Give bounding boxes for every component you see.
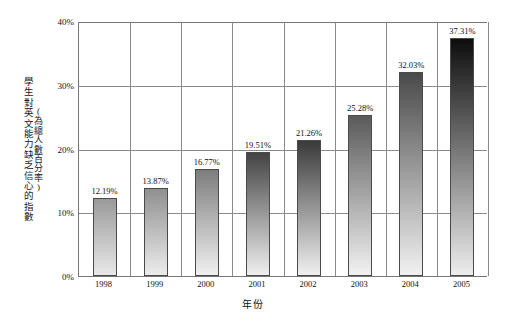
bar: 19.51% <box>246 152 270 276</box>
y-axis-tick-labels: 0%10%20%30%40% <box>40 0 74 326</box>
bar: 13.87% <box>144 188 168 276</box>
bar: 32.03% <box>399 72 423 276</box>
y-axis-title-main: 學生對英文能力缺乏信心的指數 <box>23 77 33 223</box>
x-tick-label: 2001 <box>248 279 265 289</box>
bar-value-label: 12.19% <box>91 186 117 196</box>
x-tick-label: 2000 <box>197 279 214 289</box>
bar-slot: 25.28% <box>335 22 386 276</box>
bar-value-label: 13.87% <box>143 176 169 186</box>
x-tick-label: 2002 <box>300 279 317 289</box>
bar: 12.19% <box>93 198 117 276</box>
y-tick-label: 0% <box>40 272 74 282</box>
x-tick-label: 2003 <box>351 279 368 289</box>
bar-slot: 32.03% <box>386 22 437 276</box>
plot-area: 12.19%13.87%16.77%19.51%21.26%25.28%32.0… <box>78 22 487 277</box>
category-separator <box>488 22 489 276</box>
bar-value-label: 32.03% <box>398 60 424 70</box>
bar-value-label: 16.77% <box>194 157 220 167</box>
bar-slot: 13.87% <box>130 22 181 276</box>
bar: 21.26% <box>297 140 321 276</box>
bar: 25.28% <box>348 115 372 276</box>
bar-value-label: 19.51% <box>245 140 271 150</box>
x-tick-label: 2004 <box>402 279 419 289</box>
x-tick-label: 1998 <box>95 279 112 289</box>
bar-slot: 19.51% <box>232 22 283 276</box>
y-tick-label: 20% <box>40 145 74 155</box>
bar-slot: 16.77% <box>181 22 232 276</box>
x-tick-label: 1999 <box>146 279 163 289</box>
bar-slot: 21.26% <box>284 22 335 276</box>
bar-slot: 37.31% <box>437 22 488 276</box>
bar-slot: 12.19% <box>79 22 130 276</box>
x-axis-tick-labels: 19981999200020012002200320042005 <box>78 279 487 295</box>
bar: 37.31% <box>450 38 474 276</box>
bar-value-label: 37.31% <box>449 26 475 36</box>
bar: 16.77% <box>195 169 219 276</box>
x-tick-label: 2005 <box>453 279 470 289</box>
y-tick-label: 30% <box>40 81 74 91</box>
x-axis-title: 年份 <box>0 296 505 311</box>
bar-value-label: 21.26% <box>296 128 322 138</box>
bar-chart: 學生對英文能力缺乏信心的指數 (為總人數百分率) 0%10%20%30%40% … <box>0 0 505 326</box>
y-tick-label: 10% <box>40 208 74 218</box>
bar-value-label: 25.28% <box>347 103 373 113</box>
y-tick-label: 40% <box>40 17 74 27</box>
